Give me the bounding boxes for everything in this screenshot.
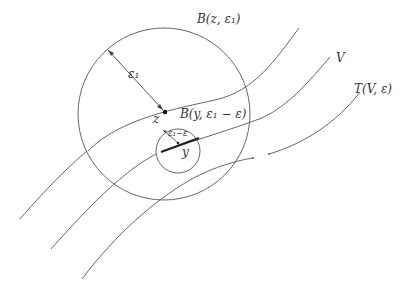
small-ball-label: B(y, ε₁ − ε)	[179, 107, 247, 121]
curve-v	[51, 57, 330, 249]
big-radius-label: ε₁	[128, 67, 139, 81]
point-z-dot	[163, 110, 167, 114]
curve-v-label: V	[336, 51, 346, 65]
point-z-label: z	[152, 112, 160, 126]
diagram-canvas: B(z, ε₁) ε₁ z B(y, ε₁ − ε) ε₁−ε y V T(V,…	[0, 0, 406, 296]
diagram-svg: B(z, ε₁) ε₁ z B(y, ε₁ − ε) ε₁−ε y V T(V,…	[0, 0, 406, 296]
tube-lower-boundary-curve-continued	[269, 92, 360, 154]
v-segment-in-small-ball	[161, 138, 199, 152]
tube-upper-boundary-curve	[20, 28, 299, 219]
tube-lower-boundary-curve	[82, 158, 253, 279]
point-y-dot	[177, 142, 180, 145]
curve-endpoint-dot	[252, 157, 254, 159]
big-ball-label: B(z, ε₁)	[196, 12, 241, 26]
small-radius-label: ε₁−ε	[168, 128, 188, 138]
curve-endpoint-dot	[268, 153, 270, 155]
point-y-label: y	[181, 145, 189, 159]
tube-label: T(V, ε)	[354, 82, 392, 96]
